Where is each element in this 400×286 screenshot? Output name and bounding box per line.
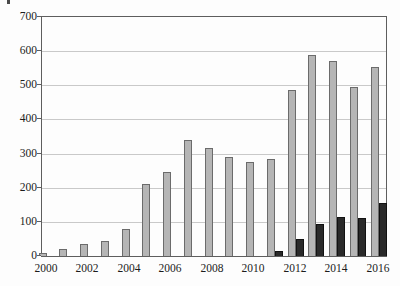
gray-series-bar-2011 xyxy=(267,159,275,256)
gray-series-bar-2016 xyxy=(371,67,379,256)
gray-series-bar-2008 xyxy=(205,148,213,256)
y-axis-label-100: 100 xyxy=(0,214,37,228)
black-series-bar-2015 xyxy=(358,218,366,256)
plot-area xyxy=(41,16,387,257)
gray-series-bar-2015 xyxy=(350,87,358,256)
gridline-600 xyxy=(42,51,386,52)
gray-series-bar-2001 xyxy=(59,249,67,256)
black-series-bar-2013 xyxy=(316,224,324,256)
x-axis-label-2016: 2016 xyxy=(357,261,399,275)
y-axis-label-0: 0 xyxy=(0,248,37,262)
gray-series-bar-2003 xyxy=(101,241,109,256)
black-series-bar-2014 xyxy=(337,217,345,256)
y-axis-label-500: 500 xyxy=(0,77,37,91)
gray-series-bar-2013 xyxy=(308,55,316,256)
gray-series-bar-2006 xyxy=(163,172,171,256)
crop-artifact-mark xyxy=(7,0,10,4)
y-axis-tick-700 xyxy=(37,16,41,17)
x-axis-label-2008: 2008 xyxy=(191,261,233,275)
y-axis-tick-200 xyxy=(37,187,41,188)
gray-series-bar-2009 xyxy=(225,157,233,256)
y-axis-label-700: 700 xyxy=(0,9,37,23)
gray-series-bar-2010 xyxy=(246,162,254,256)
y-axis-tick-0 xyxy=(37,255,41,256)
black-series-bar-2016 xyxy=(379,203,387,256)
x-axis-label-2002: 2002 xyxy=(66,261,108,275)
gray-series-bar-2002 xyxy=(80,244,88,256)
gray-series-bar-2007 xyxy=(184,140,192,256)
x-axis-label-2012: 2012 xyxy=(274,261,316,275)
x-axis-label-2006: 2006 xyxy=(149,261,191,275)
y-axis-label-400: 400 xyxy=(0,111,37,125)
x-axis-label-2004: 2004 xyxy=(108,261,150,275)
bar-chart: 0100200300400500600700200020022004200620… xyxy=(0,0,400,286)
gray-series-bar-2005 xyxy=(142,184,150,256)
gray-series-bar-2014 xyxy=(329,61,337,256)
gray-series-bar-2004 xyxy=(122,229,130,256)
y-axis-label-300: 300 xyxy=(0,146,37,160)
y-axis-tick-500 xyxy=(37,84,41,85)
black-series-bar-2011 xyxy=(275,251,283,256)
gray-series-bar-2012 xyxy=(288,90,296,256)
y-axis-label-600: 600 xyxy=(0,43,37,57)
x-axis-label-2000: 2000 xyxy=(25,261,67,275)
y-axis-tick-300 xyxy=(37,153,41,154)
y-axis-label-200: 200 xyxy=(0,180,37,194)
x-axis-label-2014: 2014 xyxy=(315,261,357,275)
x-axis-label-2010: 2010 xyxy=(232,261,274,275)
y-axis-tick-600 xyxy=(37,50,41,51)
y-axis-tick-100 xyxy=(37,221,41,222)
y-axis-tick-400 xyxy=(37,118,41,119)
black-series-bar-2012 xyxy=(296,239,304,256)
